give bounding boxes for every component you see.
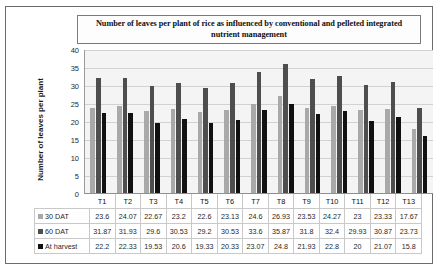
table-cell-T4-30-dat: 23.2 <box>166 209 192 224</box>
bar-T11-60-dat <box>364 85 369 193</box>
table-cell-T13-at-harvest: 15.8 <box>396 239 422 254</box>
table-cell-T6-at-harvest: 20.33 <box>217 239 243 254</box>
table-cell-T3-60-dat: 29.6 <box>141 224 167 239</box>
table-cell-T10-30-dat: 24.27 <box>319 209 345 224</box>
bar-T12-30-dat <box>385 109 390 193</box>
bars-layer <box>85 50 433 193</box>
legend-item-30-dat: 30 DAT <box>35 209 90 224</box>
bar-T9-30-dat <box>305 108 310 193</box>
y-axis-tick-40: 40 <box>71 46 79 55</box>
table-col-header-T11: T11 <box>345 194 371 209</box>
y-axis-tick-20: 20 <box>71 118 79 127</box>
bar-group-T5 <box>192 50 219 193</box>
table-cell-T13-30-dat: 17.67 <box>396 209 422 224</box>
table-cell-T7-30-dat: 24.6 <box>243 209 269 224</box>
bar-T11-at-harvest <box>369 121 374 193</box>
bar-T12-at-harvest <box>396 117 401 193</box>
bar-T8-at-harvest <box>289 104 294 193</box>
table-col-header-T13: T13 <box>396 194 422 209</box>
bar-T13-60-dat <box>417 108 422 193</box>
table-cell-T1-30-dat: 23.6 <box>90 209 116 224</box>
y-axis-tick-labels: 4035302520151050 <box>63 50 81 194</box>
bar-group-T3 <box>139 50 166 193</box>
table-row: At harvest22.222.3319.5320.619.3320.3323… <box>35 239 422 254</box>
table-cell-T1-60-dat: 31.87 <box>90 224 116 239</box>
bar-group-T10 <box>326 50 353 193</box>
table-cell-T11-60-dat: 29.93 <box>345 224 371 239</box>
bar-T8-30-dat <box>278 96 283 193</box>
bar-T5-30-dat <box>198 112 203 193</box>
chart-title: Number of leaves per plant of rice as in… <box>82 19 416 40</box>
bar-T10-30-dat <box>331 106 336 193</box>
chart-frame: Number of leaves per plant of rice as in… <box>5 6 433 264</box>
bar-T6-60-dat <box>230 83 235 193</box>
table-col-header-T7: T7 <box>243 194 269 209</box>
legend-label: 30 DAT <box>45 212 69 221</box>
legend-item-at-harvest: At harvest <box>35 239 90 254</box>
table-cell-T5-60-dat: 29.2 <box>192 224 218 239</box>
bar-group-T4 <box>165 50 192 193</box>
table-cell-T11-30-dat: 23 <box>345 209 371 224</box>
table-cell-T4-60-dat: 30.53 <box>166 224 192 239</box>
bar-T9-60-dat <box>310 79 315 193</box>
chart-title-box: Number of leaves per plant of rice as in… <box>77 15 421 44</box>
bar-group-T7 <box>246 50 273 193</box>
bar-group-T6 <box>219 50 246 193</box>
bar-T1-at-harvest <box>102 113 107 193</box>
plot-area <box>84 50 433 194</box>
table-cell-T3-at-harvest: 19.53 <box>141 239 167 254</box>
table-cell-T13-60-dat: 23.73 <box>396 224 422 239</box>
table-cell-T4-at-harvest: 20.6 <box>166 239 192 254</box>
table-cell-T2-30-dat: 24.07 <box>115 209 141 224</box>
y-axis-tick-15: 15 <box>71 136 79 145</box>
data-table: T1T2T3T4T5T6T7T8T9T10T11T12T1330 DAT23.6… <box>34 194 422 254</box>
bar-T7-60-dat <box>257 72 262 193</box>
y-axis-tick-35: 35 <box>71 64 79 73</box>
plot-wrapper: 4035302520151050 <box>63 50 440 205</box>
table-cell-T5-at-harvest: 19.33 <box>192 239 218 254</box>
table-col-header-T5: T5 <box>192 194 218 209</box>
bar-T5-at-harvest <box>209 123 214 193</box>
table-cell-T2-60-dat: 31.93 <box>115 224 141 239</box>
table-col-header-T3: T3 <box>141 194 167 209</box>
table-cell-T3-30-dat: 22.67 <box>141 209 167 224</box>
bar-T2-60-dat <box>123 78 128 193</box>
table-cell-T10-at-harvest: 22.8 <box>319 239 345 254</box>
bar-group-T8 <box>272 50 299 193</box>
table-col-header-T2: T2 <box>115 194 141 209</box>
bar-T6-30-dat <box>224 110 229 193</box>
bar-T2-at-harvest <box>128 113 133 193</box>
legend-label: At harvest <box>45 242 77 251</box>
table-cell-T6-30-dat: 23.13 <box>217 209 243 224</box>
y-axis-tick-5: 5 <box>75 172 79 181</box>
bar-T3-30-dat <box>144 111 149 193</box>
bar-group-T9 <box>299 50 326 193</box>
table-col-header-T8: T8 <box>268 194 294 209</box>
bar-T8-60-dat <box>283 64 288 193</box>
bar-T3-at-harvest <box>155 123 160 193</box>
table-cell-T2-at-harvest: 22.33 <box>115 239 141 254</box>
table-col-header-T4: T4 <box>166 194 192 209</box>
bar-T12-60-dat <box>391 82 396 193</box>
table-cell-T12-30-dat: 23.33 <box>370 209 396 224</box>
table-header-row: T1T2T3T4T5T6T7T8T9T10T11T12T13 <box>35 194 422 209</box>
bar-T4-30-dat <box>171 109 176 193</box>
bar-group-T11 <box>353 50 380 193</box>
table-cell-T8-60-dat: 35.87 <box>268 224 294 239</box>
table-cell-T9-at-harvest: 21.93 <box>294 239 320 254</box>
bar-T10-at-harvest <box>343 111 348 193</box>
table-row: 30 DAT23.624.0722.6723.222.623.1324.626.… <box>35 209 422 224</box>
y-axis-tick-30: 30 <box>71 82 79 91</box>
table-cell-T11-at-harvest: 20 <box>345 239 371 254</box>
legend-swatch-icon <box>38 214 43 219</box>
table-cell-T6-60-dat: 30.53 <box>217 224 243 239</box>
bar-T10-60-dat <box>337 76 342 193</box>
table-col-header-T1: T1 <box>90 194 116 209</box>
table-cell-T9-60-dat: 31.8 <box>294 224 320 239</box>
bar-T9-at-harvest <box>316 114 321 193</box>
bar-T1-60-dat <box>96 78 101 193</box>
table-cell-T10-60-dat: 32.4 <box>319 224 345 239</box>
bar-T7-30-dat <box>251 104 256 193</box>
bar-T4-at-harvest <box>182 119 187 193</box>
bar-T6-at-harvest <box>236 120 241 193</box>
